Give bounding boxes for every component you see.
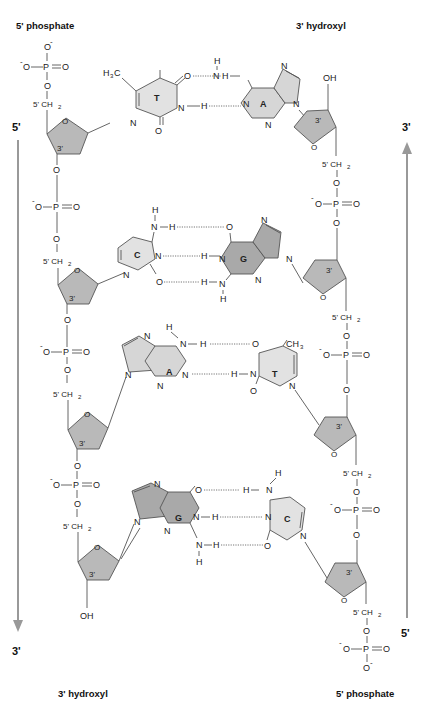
svg-text:5' CH: 5' CH: [33, 100, 53, 109]
svg-text:N: N: [178, 103, 185, 113]
label-top-right-3-hydroxyl: 3' hydroxyl: [296, 20, 346, 31]
right-sugar-4: 3' O 5' CH 2: [325, 563, 382, 618]
svg-text:N: N: [289, 381, 296, 391]
base-pair-4-guanine-cytosine: N N N N G O H H N H H H N N C N O: [121, 468, 327, 578]
svg-text:C: C: [284, 514, 291, 524]
svg-text:O: O: [373, 505, 380, 515]
svg-text:A: A: [260, 99, 267, 109]
svg-text:-: -: [370, 658, 373, 667]
svg-text:N: N: [265, 120, 272, 130]
svg-text:H: H: [201, 101, 208, 111]
svg-text:N: N: [125, 370, 132, 380]
svg-text:O: O: [383, 644, 390, 654]
svg-text:O: O: [343, 385, 350, 395]
svg-text:N: N: [266, 485, 273, 495]
svg-text:O: O: [333, 218, 340, 228]
svg-text:N: N: [130, 118, 137, 128]
svg-text:O: O: [320, 293, 326, 302]
svg-text:N: N: [243, 99, 250, 109]
svg-text:5' CH: 5' CH: [343, 469, 363, 478]
svg-text:N: N: [155, 251, 162, 261]
svg-text:O: O: [156, 277, 163, 287]
svg-text:5' CH: 5' CH: [353, 608, 373, 617]
right-3-hydroxyl-oh: OH: [323, 73, 337, 83]
svg-text:N: N: [219, 254, 226, 264]
svg-text:N: N: [281, 61, 288, 71]
right-sugar-2: 3' O 5' CH 2: [303, 260, 361, 323]
svg-text:N: N: [144, 331, 151, 341]
svg-text:N: N: [265, 512, 272, 522]
svg-text:O: O: [363, 350, 370, 360]
svg-text:H: H: [213, 540, 220, 550]
svg-text:N: N: [219, 279, 226, 289]
svg-text:P: P: [343, 350, 349, 360]
right-strand-direction-arrow: 3' 5': [401, 121, 412, 639]
svg-text:N: N: [293, 99, 300, 109]
svg-text:P: P: [363, 644, 369, 654]
svg-text:P: P: [53, 202, 59, 212]
svg-text:O: O: [264, 541, 271, 551]
svg-text:H: H: [231, 369, 238, 379]
svg-text:T: T: [154, 93, 160, 103]
base-pair-3-adenine-thymine: N N N N A H N H H O N T N CH 3 O: [122, 322, 319, 425]
svg-text:O: O: [333, 178, 340, 188]
svg-text:N: N: [154, 479, 161, 489]
svg-text:2: 2: [347, 164, 351, 170]
svg-text:2: 2: [368, 473, 372, 479]
svg-text:O: O: [341, 596, 347, 605]
svg-text:P: P: [43, 62, 49, 72]
svg-text:O: O: [93, 480, 100, 490]
svg-text:O: O: [363, 663, 370, 673]
left-sugar-2: O 3': [58, 266, 124, 314]
svg-text:2: 2: [78, 394, 82, 400]
svg-text:5' CH: 5' CH: [63, 522, 83, 531]
svg-text:O: O: [53, 165, 60, 175]
svg-text:O: O: [74, 499, 81, 509]
svg-text:N: N: [196, 540, 203, 550]
svg-text:N: N: [134, 517, 141, 527]
svg-text:O: O: [84, 410, 90, 419]
base-pair-2-cytosine-guanine: C N N H N H O H H O G N N N N N H: [118, 205, 303, 304]
svg-text:O: O: [315, 199, 322, 209]
svg-text:H: H: [201, 277, 208, 287]
label-bottom-right-5-phosphate: 5' phosphate: [336, 688, 394, 699]
svg-text:2: 2: [357, 317, 361, 323]
svg-text:O: O: [53, 234, 60, 244]
svg-text:-: -: [339, 638, 342, 647]
svg-text:2: 2: [88, 526, 92, 532]
svg-text:O: O: [252, 339, 259, 349]
left-sugar-1: O 3': [47, 110, 110, 165]
svg-text:5' CH: 5' CH: [53, 390, 73, 399]
svg-text:N: N: [286, 254, 293, 264]
svg-text:G: G: [240, 254, 247, 264]
svg-text:O: O: [226, 222, 233, 232]
svg-text:5' CH: 5' CH: [322, 160, 342, 169]
svg-text:-: -: [330, 499, 333, 508]
svg-text:P: P: [63, 347, 69, 357]
left-strand-5-end-label: 5': [12, 121, 21, 133]
svg-text:5' CH: 5' CH: [332, 313, 352, 322]
left-phosphodiester-3: O - O P O O 5' CH 2: [50, 461, 100, 532]
svg-text:N: N: [193, 512, 200, 522]
left-strand-3-end-label: 3': [12, 645, 21, 657]
svg-text:3': 3': [57, 144, 63, 153]
svg-text:-: -: [311, 193, 314, 202]
svg-text:H: H: [220, 294, 227, 304]
left-sugar-4: O 3' OH: [78, 524, 134, 621]
svg-text:N: N: [213, 71, 220, 81]
svg-text:N: N: [123, 270, 130, 280]
svg-text:C: C: [114, 68, 121, 78]
svg-text:2: 2: [58, 104, 62, 110]
svg-text:N: N: [300, 531, 307, 541]
svg-text:O: O: [343, 331, 350, 341]
svg-text:H: H: [275, 468, 282, 478]
svg-text:O: O: [43, 347, 50, 357]
svg-text:O: O: [83, 347, 90, 357]
svg-text:O: O: [155, 126, 162, 136]
right-5-phosphate-group: O - O P O O -: [339, 618, 390, 673]
svg-text:5' CH: 5' CH: [43, 257, 63, 266]
right-phosphodiester-3: O - O P O O: [330, 479, 380, 563]
arrow-down-icon: [13, 620, 23, 632]
svg-text:C: C: [134, 250, 141, 260]
svg-text:O: O: [331, 450, 337, 459]
